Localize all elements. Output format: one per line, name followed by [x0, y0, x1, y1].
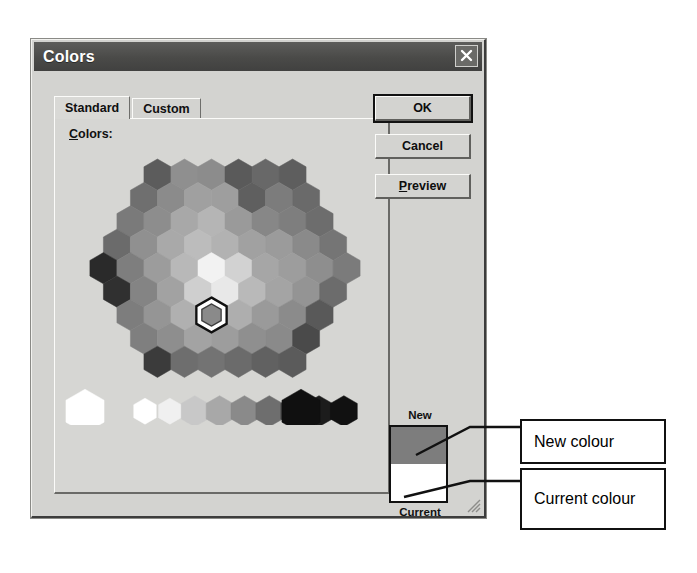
tab-standard[interactable]: Standard	[54, 96, 130, 119]
swatch-box	[389, 425, 448, 503]
close-icon[interactable]	[455, 45, 478, 67]
color-hex-cell[interactable]	[134, 398, 157, 424]
tab-standard-label: Standard	[65, 101, 119, 115]
color-honeycomb-grid[interactable]	[59, 145, 389, 425]
colors-dialog: Colors Standard Custom Colors:	[31, 39, 486, 518]
color-hex-cell[interactable]	[159, 398, 182, 424]
preview-button-label: Preview	[399, 179, 446, 193]
annotation-current-colour: Current colour	[520, 468, 666, 530]
preview-mnemonic: P	[399, 179, 407, 193]
color-hex-cell[interactable]	[206, 396, 233, 425]
cancel-button-label: Cancel	[402, 139, 443, 153]
color-preview-swatch: New Current	[389, 408, 451, 520]
tab-custom-label: Custom	[143, 102, 190, 116]
annotation-new-colour: New colour	[520, 419, 666, 464]
color-hex-cell[interactable]	[181, 396, 208, 425]
colors-label: Colors:	[69, 127, 113, 141]
selected-color-swatch	[202, 304, 221, 326]
standard-tab-panel: Colors:	[54, 118, 390, 494]
current-color-chip	[391, 464, 446, 501]
ok-button-label: OK	[413, 101, 432, 115]
annotation-new-colour-text: New colour	[534, 432, 614, 452]
preview-button[interactable]: Preview	[375, 174, 471, 199]
current-color-label: Current	[389, 505, 451, 520]
new-color-label: New	[389, 408, 451, 423]
page-background: Colors Standard Custom Colors:	[0, 0, 697, 573]
black-color-hex[interactable]	[282, 389, 320, 425]
color-hex-cell[interactable]	[330, 396, 357, 425]
dialog-titlebar[interactable]: Colors	[34, 42, 482, 71]
new-color-chip	[391, 427, 446, 464]
white-color-hex[interactable]	[66, 389, 104, 425]
tab-custom[interactable]: Custom	[132, 98, 201, 119]
annotation-current-colour-text: Current colour	[534, 489, 635, 509]
resize-grip-icon[interactable]	[467, 499, 481, 513]
color-hex-cell[interactable]	[256, 396, 283, 425]
cancel-button[interactable]: Cancel	[375, 134, 471, 159]
colors-label-text: olors:	[78, 127, 113, 141]
ok-button[interactable]: OK	[375, 96, 471, 121]
dialog-title: Colors	[43, 48, 95, 66]
colors-label-mnemonic: C	[69, 127, 78, 141]
tabstrip: Standard Custom	[54, 96, 201, 119]
color-hex-cell[interactable]	[231, 396, 258, 425]
